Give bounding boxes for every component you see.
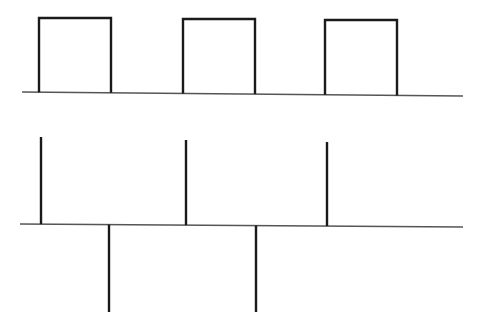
pulse-2 [183,19,255,94]
square-pulse-train [22,18,463,96]
pulse-3 [325,20,397,95]
pulse-1 [39,18,111,93]
impulse-train [20,137,463,312]
time-axis [20,224,463,227]
pulse-diagram [0,0,482,327]
